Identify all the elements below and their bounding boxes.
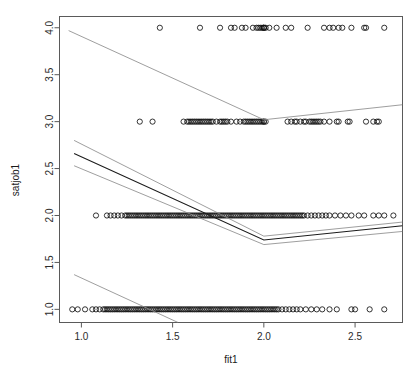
data-point <box>75 307 80 312</box>
data-point <box>197 25 202 30</box>
y-axis-ticks: 1.01.52.02.53.03.54.0 <box>44 20 59 316</box>
data-point <box>362 213 367 218</box>
point-band-1 <box>70 307 387 312</box>
x-axis-ticks: 1.01.52.02.5 <box>74 323 362 342</box>
fit-line-fit-lower-band <box>74 166 402 245</box>
data-point <box>289 25 294 30</box>
point-band-3 <box>137 119 381 124</box>
x-tick-label: 1.0 <box>74 331 88 342</box>
point-band-2 <box>93 213 396 218</box>
y-tick-label: 3.5 <box>44 67 55 81</box>
data-point <box>363 119 368 124</box>
y-tick-label: 2.0 <box>44 208 55 222</box>
data-point <box>349 213 354 218</box>
data-point <box>356 213 361 218</box>
data-point <box>340 25 345 30</box>
data-point <box>243 25 248 30</box>
data-point <box>232 25 237 30</box>
data-points-layer <box>70 25 396 312</box>
fit-line-lower-curve <box>74 275 178 323</box>
data-point <box>283 25 288 30</box>
data-point <box>327 213 332 218</box>
x-tick-label: 1.5 <box>166 331 180 342</box>
r-plot-canvas: 1.01.52.02.53.03.54.0 1.01.52.02.5 fit1 … <box>0 0 419 385</box>
y-tick-label: 4.0 <box>44 20 55 34</box>
x-axis-title: fit1 <box>224 354 238 365</box>
data-point <box>274 25 279 30</box>
point-band-4 <box>157 25 387 30</box>
data-point <box>331 25 336 30</box>
y-tick-label: 3.0 <box>44 114 55 128</box>
data-point <box>391 213 396 218</box>
data-point <box>321 119 326 124</box>
data-point <box>150 119 155 124</box>
x-tick-label: 2.5 <box>348 331 362 342</box>
y-tick-label: 2.5 <box>44 161 55 175</box>
data-point <box>371 213 376 218</box>
data-point <box>327 307 332 312</box>
data-point <box>320 307 325 312</box>
data-point <box>338 213 343 218</box>
data-point <box>349 25 354 30</box>
data-point <box>305 25 310 30</box>
data-point <box>70 307 75 312</box>
data-point <box>382 25 387 30</box>
data-point <box>332 213 337 218</box>
data-point <box>343 213 348 218</box>
scatter-plot-figure: 1.01.52.02.53.03.54.0 1.01.52.02.5 fit1 … <box>0 0 419 385</box>
data-point <box>376 213 381 218</box>
data-point <box>382 307 387 312</box>
data-point <box>321 25 326 30</box>
data-point <box>137 119 142 124</box>
data-point <box>217 25 222 30</box>
data-point <box>298 307 303 312</box>
data-point <box>382 213 387 218</box>
data-point <box>82 307 87 312</box>
data-point <box>303 307 308 312</box>
fitted-lines-layer <box>69 31 403 323</box>
y-tick-label: 1.5 <box>44 255 55 269</box>
fit-line-upper-curve <box>69 31 403 120</box>
data-point <box>157 25 162 30</box>
y-tick-label: 1.0 <box>44 302 55 316</box>
data-point <box>314 307 319 312</box>
y-axis-title: satjob1 <box>10 163 21 196</box>
data-point <box>327 119 332 124</box>
data-point <box>367 307 372 312</box>
data-point <box>228 119 233 124</box>
plot-panel-border <box>60 17 403 323</box>
x-tick-label: 2.0 <box>257 331 271 342</box>
fit-line-fit-upper-band <box>74 140 402 236</box>
data-point <box>352 307 357 312</box>
data-point <box>93 213 98 218</box>
data-point <box>334 307 339 312</box>
data-point <box>267 25 272 30</box>
data-point <box>309 307 314 312</box>
